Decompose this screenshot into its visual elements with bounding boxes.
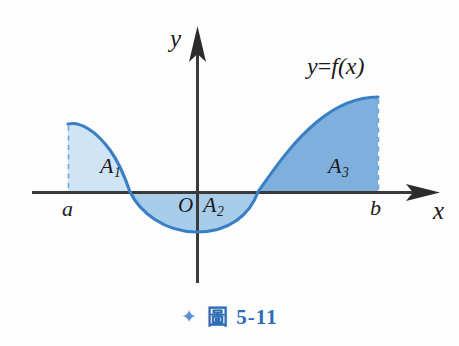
region-A2-letter: A: [203, 192, 216, 217]
caption-number: 5-11: [236, 305, 277, 329]
curve-equation-function: f: [331, 53, 338, 79]
region-label-A1: A1: [100, 155, 121, 180]
region-A1-subscript: 1: [113, 165, 120, 180]
curve-equation-label: y=f(x): [307, 54, 365, 78]
region-A1-letter: A: [100, 153, 113, 178]
region-A3-letter: A: [328, 153, 341, 178]
figure-caption: ✦圖5-11: [0, 300, 459, 330]
curve-equation-lhs: y: [307, 53, 318, 79]
y-axis-label: y: [170, 26, 181, 51]
left-bound-label: a: [62, 198, 73, 220]
x-axis-label: x: [433, 198, 444, 223]
region-A2-subscript: 2: [216, 204, 223, 219]
caption-label: 圖: [207, 305, 229, 329]
sparkle-icon: ✦: [181, 305, 198, 328]
figure-container: y x a b O A1 A2 A3 y=f(x) ✦圖5-11: [0, 0, 459, 346]
region-A3-fill: [258, 97, 378, 192]
origin-label: O: [178, 195, 193, 216]
curve-equation-argument: (x): [338, 53, 365, 79]
area-under-curve-plot: [0, 0, 459, 346]
curve-equation-equals: =: [318, 53, 332, 79]
region-A2-fill: [130, 192, 258, 232]
region-label-A3: A3: [328, 155, 349, 180]
region-A3-subscript: 3: [341, 165, 348, 180]
right-bound-label: b: [370, 197, 381, 219]
region-label-A2: A2: [203, 194, 224, 219]
